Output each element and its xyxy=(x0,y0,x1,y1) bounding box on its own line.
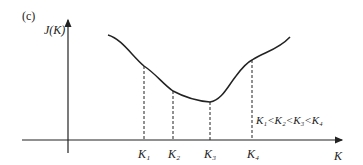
k4-label: K₄ xyxy=(246,147,259,161)
x-axis-label: K xyxy=(333,149,343,163)
ordering-annotation: K₁<K₂<K₃<K₄ xyxy=(255,114,323,126)
y-axis-label: J(K) xyxy=(44,23,65,37)
cost-curve xyxy=(108,35,290,102)
panel-label: (c) xyxy=(22,9,35,23)
cost-curve-diagram: (c) J(K) K K₁ K₂ K₃ K₄ K₁<K₂<K₃<K₄ xyxy=(0,0,363,165)
k3-label: K₃ xyxy=(203,147,216,161)
k1-label: K₁ xyxy=(137,147,150,161)
k2-label: K₂ xyxy=(167,147,180,161)
